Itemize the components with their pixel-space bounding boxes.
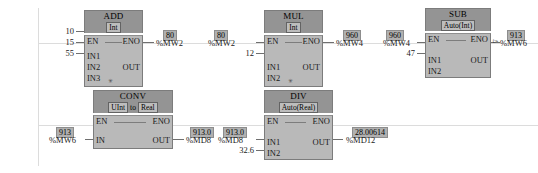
conv-out-wire <box>173 139 184 140</box>
div-in1-wire <box>256 139 264 140</box>
sub-in2-pin[interactable]: IN2 <box>428 67 441 76</box>
sub-datatype-badge[interactable]: Auto(Int) <box>441 20 475 31</box>
mul-expand-icon[interactable]: ✳ <box>288 78 293 84</box>
conv-header: CONV UInt to Real <box>93 90 173 113</box>
add-in3-pin[interactable]: IN3 <box>87 74 100 83</box>
sub-out-marker-icon: ▻ <box>493 38 498 45</box>
sub-header: SUB Auto(Int) <box>425 8 491 31</box>
mul-en-pin[interactable]: EN <box>267 37 278 46</box>
add-in3-wire <box>76 53 84 54</box>
div-body: EN ENO IN1 IN2 OUT <box>264 115 333 160</box>
function-block-div[interactable]: DIV Auto(Real) EN ENO IN1 IN2 OUT <box>264 90 333 160</box>
add-in2-operand[interactable]: 15 <box>46 37 74 47</box>
sub-eno-pin[interactable]: ENO <box>471 35 488 44</box>
function-block-add[interactable]: ADD Int EN ENO IN1 IN2 IN3 ✳ OUT <box>84 10 143 87</box>
mul-datatype-badge[interactable]: Int <box>286 22 300 33</box>
function-block-mul[interactable]: MUL Int EN ENO IN1 IN2 ✳ OUT <box>264 10 323 87</box>
add-eno-pin[interactable]: ENO <box>123 37 140 46</box>
add-title: ADD <box>85 12 142 21</box>
conv-body: EN ENO IN OUT <box>93 115 173 149</box>
add-in1-operand[interactable]: 10 <box>46 26 74 36</box>
sub-in1-pin[interactable]: IN1 <box>428 56 441 65</box>
sub-out-tag[interactable]: %MW6 <box>500 38 527 48</box>
conv-source-type-badge[interactable]: UInt <box>108 102 128 113</box>
power-rail <box>38 8 39 166</box>
div-datatype-badge[interactable]: Auto(Real) <box>279 102 319 113</box>
conv-target-type-badge[interactable]: Real <box>138 102 158 113</box>
conv-in-tag[interactable]: %MW6 <box>49 135 76 145</box>
div-eno-pin[interactable]: ENO <box>313 117 330 126</box>
add-body: EN ENO IN1 IN2 IN3 ✳ OUT <box>84 35 143 87</box>
mul-in1-wire <box>256 42 264 43</box>
add-header: ADD Int <box>84 10 143 33</box>
mul-eno-pin[interactable]: ENO <box>303 37 320 46</box>
add-en-pin[interactable]: EN <box>87 37 98 46</box>
mul-in1-pin[interactable]: IN1 <box>267 63 280 72</box>
conv-in-wire <box>85 139 93 140</box>
conv-eno-pin[interactable]: ENO <box>153 117 170 126</box>
mul-header: MUL Int <box>264 10 323 33</box>
mul-out-wire <box>323 42 334 43</box>
add-datatype-badge[interactable]: Int <box>106 22 120 33</box>
div-in2-operand[interactable]: 32.6 <box>222 145 254 155</box>
mul-body: EN ENO IN1 IN2 ✳ OUT <box>264 35 323 87</box>
conv-title: CONV <box>94 92 172 101</box>
ladder-network-canvas[interactable]: ADD Int EN ENO IN1 IN2 IN3 ✳ OUT 10 15 5… <box>0 0 538 173</box>
mul-out-pin[interactable]: OUT <box>303 63 320 72</box>
sub-in2-wire <box>417 53 425 54</box>
add-in1-pin[interactable]: IN1 <box>87 52 100 61</box>
add-out-wire <box>143 42 154 43</box>
conv-in-pin[interactable]: IN <box>96 136 105 145</box>
function-block-conv[interactable]: CONV UInt to Real EN ENO IN OUT <box>93 90 173 149</box>
mul-in2-operand[interactable]: 12 <box>224 48 254 58</box>
div-out-tag[interactable]: %MD12 <box>346 135 375 145</box>
sub-in1-wire <box>417 42 425 43</box>
conv-to-label: to <box>130 103 136 112</box>
div-out-pin[interactable]: OUT <box>313 138 330 147</box>
add-in2-wire <box>76 42 84 43</box>
conv-out-tag[interactable]: %MD8 <box>186 135 211 145</box>
sub-body: EN ENO IN1 IN2 OUT <box>425 33 491 78</box>
sub-in1-tag[interactable]: %MW4 <box>383 38 410 48</box>
mul-in1-tag[interactable]: %MW2 <box>208 38 235 48</box>
mul-in2-pin[interactable]: IN2 <box>267 74 280 83</box>
conv-out-pin[interactable]: OUT <box>153 136 170 145</box>
add-out-pin[interactable]: OUT <box>123 63 140 72</box>
add-in1-wire <box>76 31 84 32</box>
div-title: DIV <box>265 92 332 101</box>
sub-title: SUB <box>426 10 490 19</box>
div-in1-tag[interactable]: %MD8 <box>218 135 243 145</box>
sub-en-pin[interactable]: EN <box>428 35 439 44</box>
conv-en-pin[interactable]: EN <box>96 117 107 126</box>
add-in3-operand[interactable]: 55 <box>46 48 74 58</box>
div-out-wire <box>333 139 343 140</box>
mul-title: MUL <box>265 12 322 21</box>
div-header: DIV Auto(Real) <box>264 90 333 113</box>
sub-out-pin[interactable]: OUT <box>471 56 488 65</box>
add-out-tag[interactable]: %MW2 <box>156 38 183 48</box>
div-in2-wire <box>256 150 264 151</box>
mul-in2-wire <box>256 53 264 54</box>
mul-out-tag[interactable]: %MW4 <box>336 38 363 48</box>
div-in1-pin[interactable]: IN1 <box>267 138 280 147</box>
add-in2-pin[interactable]: IN2 <box>87 63 100 72</box>
div-in2-pin[interactable]: IN2 <box>267 149 280 158</box>
sub-in2-operand[interactable]: 47 <box>387 48 415 58</box>
add-expand-icon[interactable]: ✳ <box>108 78 113 84</box>
function-block-sub[interactable]: SUB Auto(Int) EN ENO IN1 IN2 OUT <box>425 8 491 78</box>
div-en-pin[interactable]: EN <box>267 117 278 126</box>
